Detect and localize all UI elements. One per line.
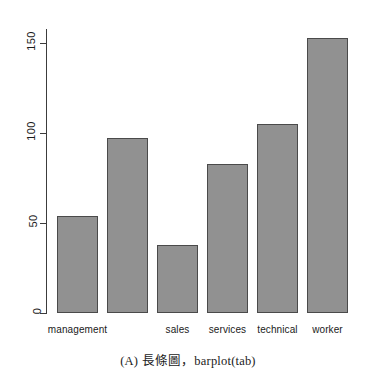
figure-panel: 050100150 managementsalesservicestechnic… [0, 0, 376, 380]
bar [257, 124, 298, 313]
bar [57, 216, 98, 313]
bar [157, 245, 198, 313]
bar-chart-plot: 050100150 managementsalesservicestechnic… [0, 0, 376, 345]
bar [107, 138, 148, 313]
bar [307, 38, 348, 313]
figure-caption: (A) 長條圖，barplot(tab) [0, 350, 376, 369]
x-axis-category-label: worker [278, 324, 376, 335]
bar-series: managementsalesservicestechnicalworker [0, 0, 376, 345]
x-axis-category-label: management [28, 324, 128, 335]
bar [207, 164, 248, 313]
